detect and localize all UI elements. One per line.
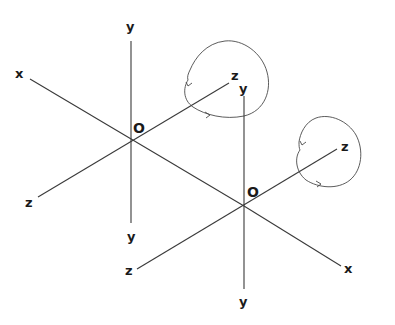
frame-1: y x y z z O [15,19,269,244]
frame-2-label-y-top: y [239,81,248,96]
frame-2-label-z-top: z [341,139,349,154]
frame-1-label-y-top: y [126,19,135,34]
frame-1-x-axis [30,79,244,206]
frame-2-x-axis [244,206,341,266]
frame-2-label-z-bottom: z [125,263,133,278]
frame-2-z-axis [137,149,337,269]
frame-1-arrowhead-icon [205,112,210,118]
frame-1-label-x: x [15,66,24,81]
frame-1-rotation-circle [185,41,269,118]
frame-1-origin-label: O [133,120,145,136]
frame-1-label-y-bottom: y [127,229,136,244]
frame-1-label-z-top: z [231,68,239,83]
frame-2-label-x: x [344,261,353,276]
coordinate-diagram: y x y z z O y x y z z O [0,0,395,325]
frame-2-label-y-bottom: y [239,294,248,309]
frame-2-arrowhead-icon [300,141,306,145]
frame-2-origin-label: O [247,184,259,200]
frame-2: y x y z z O [125,81,361,309]
frame-1-label-z-bottom: z [25,195,33,210]
frame-2-rotation-circle [297,117,361,187]
